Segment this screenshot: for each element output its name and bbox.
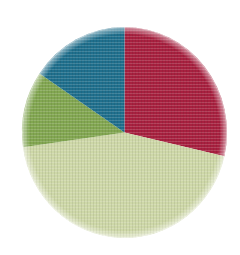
- chart-canvas: [0, 0, 240, 255]
- pie-chart: [0, 0, 240, 255]
- pie-slices-group: [22, 27, 227, 238]
